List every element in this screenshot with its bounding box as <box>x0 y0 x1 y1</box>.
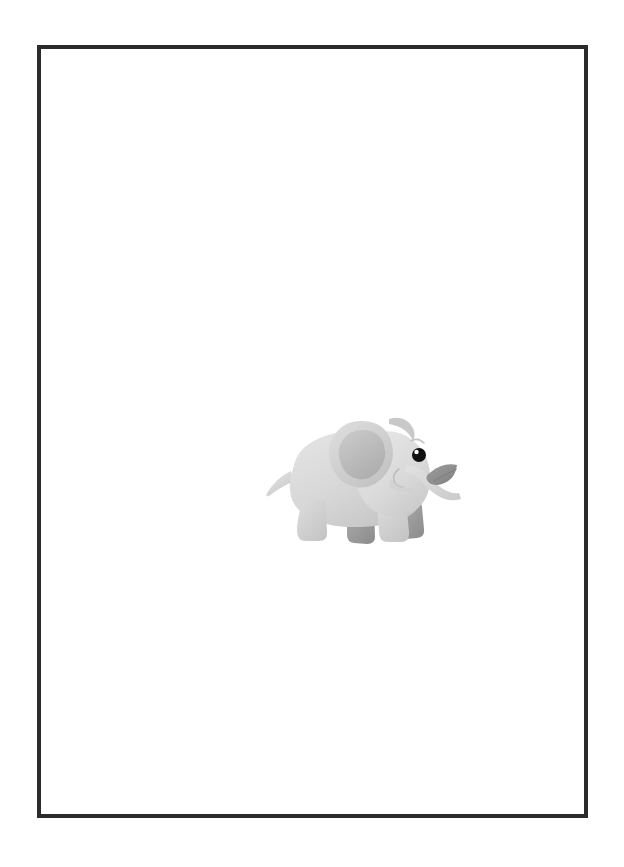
back-leg-near <box>297 500 327 541</box>
elephant-illustration <box>241 409 461 554</box>
leaf <box>427 464 458 485</box>
picture-frame <box>37 45 588 818</box>
poster-canvas <box>0 0 624 867</box>
eye-highlight <box>414 450 418 454</box>
tail <box>266 471 292 496</box>
eye <box>412 448 426 462</box>
frame-mat <box>41 49 584 814</box>
